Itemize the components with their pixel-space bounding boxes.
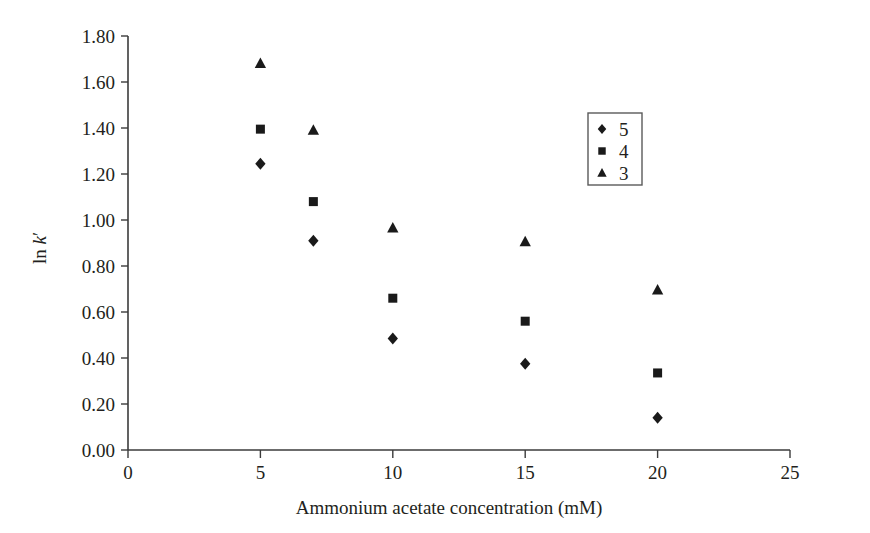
y-axis-title-prefix: ln [29,245,50,265]
x-axis-title: Ammonium acetate concentration (mM) [296,497,603,519]
y-axis-title: ln k′ [29,232,50,264]
y-axis-tick-label: 0.20 [82,394,115,415]
data-point [521,317,530,326]
x-axis-tick-label: 25 [781,462,800,483]
legend-box [588,113,642,185]
x-axis-tick-label: 5 [256,462,266,483]
y-axis-tick-label: 0.60 [82,302,115,323]
y-axis-title-prime: ′ [29,232,50,236]
x-axis-tick-label: 0 [123,462,133,483]
data-point [256,125,265,134]
legend-label: 3 [619,163,629,184]
x-axis-tick-label: 15 [516,462,535,483]
y-axis-tick-label: 1.00 [82,210,115,231]
legend-label: 5 [619,119,629,140]
y-axis-tick-label: 1.20 [82,164,115,185]
y-axis-tick-label: 0.80 [82,256,115,277]
y-axis-tick-label: 1.40 [82,118,115,139]
chart-legend: 543 [588,113,642,185]
legend-label: 4 [619,141,629,162]
y-axis-tick-label: 0.00 [82,440,115,461]
y-axis-tick-label: 1.60 [82,72,115,93]
y-axis-tick-label: 1.80 [82,26,115,47]
scatter-chart-figure: 0.000.200.400.600.801.001.201.401.601.80… [0,0,870,533]
y-axis-tick-label: 0.40 [82,348,115,369]
data-point [388,294,397,303]
data-point [653,368,662,377]
svg-text:ln k′: ln k′ [29,232,50,264]
chart-background [0,0,870,533]
chart-canvas: 0.000.200.400.600.801.001.201.401.601.80… [0,0,870,533]
legend-marker-square-icon [598,147,605,154]
data-point [309,197,318,206]
x-axis-tick-label: 20 [648,462,667,483]
x-axis-tick-label: 10 [383,462,402,483]
